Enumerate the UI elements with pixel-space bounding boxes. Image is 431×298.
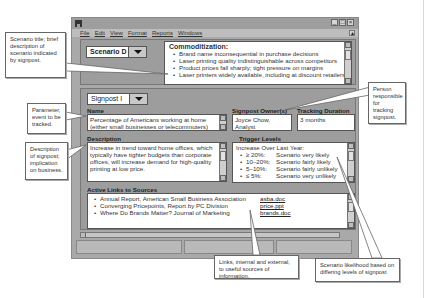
status-segment <box>276 240 352 254</box>
scenario-dropdown-value: Scenario D <box>87 47 128 57</box>
callout-links: Links, internal and external, to useful … <box>214 255 299 279</box>
links-label: Active Links to Sources <box>87 186 157 193</box>
status-bar <box>76 240 354 254</box>
name-label: Name <box>87 107 104 114</box>
name-field[interactable]: Percentage of Americans working at home … <box>87 114 227 131</box>
owner-label: Signpost Owner(s) <box>232 107 287 114</box>
links-list: Annual Report, American Small Business A… <box>90 195 345 216</box>
scenario-bullets: Brand name inconsequential in purchase d… <box>169 50 342 78</box>
trigger-row: ≥ 20%:Scenario very likely <box>236 151 345 158</box>
menu-edit[interactable]: Edit <box>95 29 105 37</box>
name-value: Percentage of Americans working at home … <box>90 116 208 130</box>
signpost-dropdown[interactable]: Signpost I <box>87 93 148 105</box>
scrollbar[interactable] <box>347 143 354 182</box>
menu-windows[interactable]: Windows <box>178 29 202 37</box>
title-bar: _ □ × <box>72 18 358 29</box>
menu-file[interactable]: File <box>80 29 90 37</box>
scrollbar[interactable] <box>219 143 226 181</box>
menu-format[interactable]: Format <box>128 29 147 37</box>
callout-parameter: Parameter, event to be tracked. <box>27 103 66 134</box>
description-value: Increase in trend toward home offices, w… <box>90 144 212 172</box>
trigger-row: 5–10%:Scenario fairly unlikely <box>236 165 345 172</box>
trigger-row: 10–20%:Scenario fairly likely <box>236 158 345 165</box>
links-field[interactable]: Annual Report, American Small Business A… <box>87 193 355 229</box>
app-icon <box>75 20 82 27</box>
scenario-dropdown[interactable]: Scenario D <box>86 46 147 58</box>
callout-scenario-title: Scenario title; brief description of sce… <box>5 32 66 78</box>
owner-value: Joyce Chow, Analyst <box>235 116 270 130</box>
scrollbar[interactable] <box>344 42 351 84</box>
duration-value: 3 months <box>300 116 325 123</box>
duration-field[interactable]: 3 months <box>297 114 355 131</box>
scenario-panel: Scenario D Commoditization: Brand name i… <box>80 39 356 85</box>
link-brands[interactable]: brands.doc <box>260 209 291 216</box>
link-price[interactable]: price.ppt <box>260 202 284 209</box>
callout-likelihood: Scenario likelihood based on differing l… <box>315 258 400 282</box>
list-item: Brand name inconsequential in purchase d… <box>169 50 342 57</box>
link-asba[interactable]: asba.doc <box>260 195 285 202</box>
status-segment <box>76 240 182 254</box>
chevron-down-icon[interactable] <box>129 94 147 104</box>
scenario-description-box[interactable]: Commoditization: Brand name inconsequent… <box>164 41 352 85</box>
menu-reports[interactable]: Reports <box>152 29 173 37</box>
menu-bar: File Edit View Format Reports Windows <box>72 29 358 37</box>
scrollbar[interactable] <box>347 194 354 228</box>
status-segment <box>184 240 274 254</box>
duration-label: Tracking Duration <box>297 107 350 114</box>
list-item: Laser printing quality indistinguishable… <box>169 57 342 64</box>
close-button[interactable]: × <box>347 19 354 26</box>
link-row: Converging Pricepoints, Report by PC Div… <box>90 202 345 209</box>
trigger-label: Trigger Levels <box>239 135 281 142</box>
app-window: _ □ × File Edit View Format Reports Wind… <box>71 17 359 259</box>
scrollbar[interactable] <box>219 115 226 130</box>
minimize-button[interactable]: _ <box>331 19 338 26</box>
link-row: Where Do Brands Matter? Journal of Marke… <box>90 209 345 216</box>
description-field[interactable]: Increase in trend toward home offices, w… <box>87 142 227 182</box>
maximize-button[interactable]: □ <box>339 19 346 26</box>
page-edge-rule <box>423 0 424 298</box>
link-row: Annual Report, American Small Business A… <box>90 195 345 202</box>
list-item: Product prices fall sharply; tight press… <box>169 64 342 71</box>
chevron-down-icon[interactable] <box>128 47 146 57</box>
horizontal-scrollbar[interactable] <box>80 232 340 238</box>
trigger-heading: Increase Over Last Year: <box>236 144 345 151</box>
description-label: Description <box>87 135 121 142</box>
callout-person: Person responsible for tracking signpost… <box>368 82 406 124</box>
callout-description: Description of signpost; implication on … <box>25 142 68 180</box>
signpost-dropdown-value: Signpost I <box>88 94 129 104</box>
owner-field[interactable]: Joyce Chow, Analyst <box>232 114 292 131</box>
trigger-list: ≥ 20%:Scenario very likely 10–20%:Scenar… <box>236 151 345 179</box>
trigger-levels-field[interactable]: Increase Over Last Year: ≥ 20%:Scenario … <box>232 142 355 183</box>
menu-view[interactable]: View <box>110 29 123 37</box>
list-item: Laser printers widely available, includi… <box>169 71 342 78</box>
window-controls: _ □ × <box>331 19 354 26</box>
scenario-title: Commoditization: <box>169 43 342 50</box>
trigger-row: ≤ 5%:Scenario very unlikely <box>236 172 345 179</box>
scroll-up-icon[interactable]: ▲ <box>349 30 355 36</box>
signpost-panel: Signpost I Name Percentage of Americans … <box>80 88 356 230</box>
